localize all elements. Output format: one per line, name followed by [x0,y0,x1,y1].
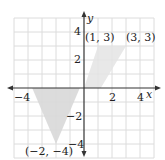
y-tick-2: 2 [74,53,81,66]
coordinate-plane: y x −4 2 4 4 2 −2 −4 (1, 3) (3, 3) (−2, … [0,0,165,160]
x-axis-label: x [146,88,153,101]
upper-shaded-region [84,46,126,88]
point-label-1-3: (1, 3) [85,31,115,44]
point-label-3-3: (3, 3) [126,31,156,44]
y-axis-down-arrow-icon [82,151,87,157]
x-tick-2: 2 [109,91,116,104]
y-tick-neg2: −2 [66,110,82,123]
x-tick-neg4: −4 [14,91,30,104]
x-axis-right-arrow-icon [155,86,161,91]
x-axis-left-arrow-icon [7,86,13,91]
y-axis-label: y [86,12,94,25]
x-tick-4: 4 [137,91,144,104]
y-tick-4: 4 [74,25,81,38]
y-axis-up-arrow-icon [82,11,87,17]
point-label-neg2-neg4: (−2, −4) [25,145,73,158]
